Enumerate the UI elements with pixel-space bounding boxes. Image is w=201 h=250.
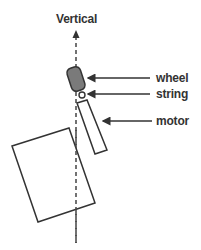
wheel-shape — [66, 65, 87, 92]
motor-label: motor — [156, 115, 189, 127]
string-circle — [79, 92, 85, 98]
motor-rectangle — [77, 100, 107, 154]
vertical-axis — [73, 30, 80, 243]
arrow-up-icon — [73, 30, 80, 38]
wheel-label: wheel — [156, 72, 188, 84]
string-label: string — [156, 88, 188, 100]
vertical-label: Vertical — [56, 13, 97, 25]
body-rectangle — [12, 128, 95, 222]
